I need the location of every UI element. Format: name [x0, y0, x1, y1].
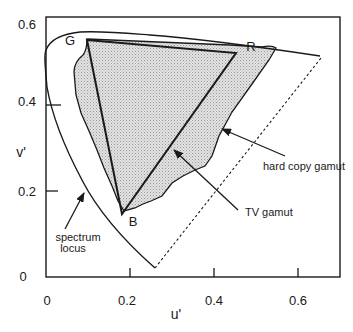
x-tick-label-0: 0	[43, 293, 50, 308]
x-tick-label-0.2: 0.2	[118, 293, 136, 308]
vertex-label-r: R	[246, 39, 255, 54]
y-axis-label: v'	[16, 144, 26, 160]
y-tick-label-0: 0	[19, 269, 26, 284]
x-tick-label-0.4: 0.4	[205, 293, 223, 308]
annotation-hard-copy-gamut: hard copy gamut	[263, 160, 345, 172]
hard-copy-gamut-arrow	[222, 129, 285, 156]
y-ticks	[46, 105, 61, 191]
y-tick-label-0.4: 0.4	[18, 94, 36, 109]
annotation-tv-gamut: TV gamut	[245, 206, 293, 218]
x-tick-label-0.6: 0.6	[289, 293, 307, 308]
x-axis-label: u'	[171, 306, 181, 322]
x-ticks	[130, 268, 298, 277]
vertex-label-b: B	[129, 214, 138, 229]
y-tick-label-0.6: 0.6	[18, 17, 36, 32]
spectrum-locus-arrow	[65, 193, 84, 229]
annotation-spectrum-locus-line2: locus	[60, 242, 86, 254]
cie-uv-chromaticity-chart: 0 0.2 0.4 0.6 0 0.2 0.4 0.6 u' v' G R B …	[0, 0, 353, 332]
vertex-label-g: G	[65, 33, 75, 48]
y-tick-label-0.2: 0.2	[18, 184, 36, 199]
